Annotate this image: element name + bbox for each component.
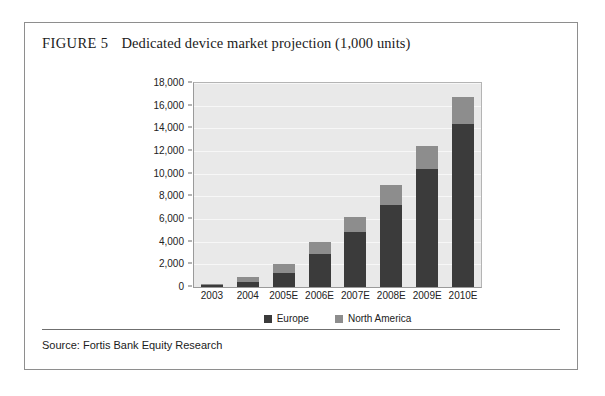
- bar-segment-europe[interactable]: [201, 285, 223, 287]
- y-tick-label: 18,000: [153, 77, 184, 88]
- bar-group[interactable]: [380, 83, 402, 287]
- chart: 02,0004,0006,0008,00010,00012,00014,0001…: [143, 75, 488, 330]
- y-axis: 02,0004,0006,0008,00010,00012,00014,0001…: [143, 75, 193, 293]
- bar-segment-north-america[interactable]: [452, 97, 474, 124]
- y-tick-label: 8,000: [159, 190, 184, 201]
- bar-segment-europe[interactable]: [309, 254, 331, 287]
- figure-title-text: Dedicated device market projection (1,00…: [121, 35, 410, 51]
- bar-segment-north-america[interactable]: [380, 185, 402, 205]
- bar-group[interactable]: [237, 83, 259, 287]
- y-tick-mark: [188, 82, 192, 83]
- x-tick-label: 2005E: [266, 290, 302, 301]
- y-tick-mark: [188, 263, 192, 264]
- y-tick-mark: [188, 127, 192, 128]
- y-tick-mark: [188, 195, 192, 196]
- legend-entry[interactable]: Europe: [264, 313, 309, 324]
- figure-title: FIGURE 5Dedicated device market projecti…: [42, 35, 411, 52]
- x-tick-label: 2010E: [445, 290, 481, 301]
- bar-series-container: [194, 83, 481, 287]
- y-tick-mark: [188, 240, 192, 241]
- bar-segment-north-america[interactable]: [344, 217, 366, 232]
- y-tick-mark: [188, 172, 192, 173]
- bar-segment-europe[interactable]: [344, 232, 366, 287]
- source-note: Source: Fortis Bank Equity Research: [42, 339, 222, 351]
- x-tick-label: 2007E: [338, 290, 374, 301]
- legend-swatch-icon: [335, 315, 343, 323]
- bar-segment-europe[interactable]: [273, 273, 295, 287]
- y-tick-mark: [188, 286, 192, 287]
- y-tick-label: 6,000: [159, 213, 184, 224]
- x-tick-label: 2004: [230, 290, 266, 301]
- x-axis: 200320042005E2006E2007E2008E2009E2010E: [194, 290, 481, 301]
- footer-divider: [42, 329, 560, 330]
- bar-segment-north-america[interactable]: [273, 264, 295, 273]
- y-tick-label: 16,000: [153, 99, 184, 110]
- y-tick-label: 4,000: [159, 235, 184, 246]
- bar-segment-europe[interactable]: [416, 169, 438, 287]
- figure-card: FIGURE 5Dedicated device market projecti…: [24, 22, 578, 370]
- y-tick-label: 0: [178, 281, 184, 292]
- bar-group[interactable]: [273, 83, 295, 287]
- y-tick-mark: [188, 150, 192, 151]
- plot-area: [193, 82, 482, 288]
- legend-label: Europe: [277, 313, 309, 324]
- bar-segment-europe[interactable]: [452, 124, 474, 287]
- x-tick-label: 2006E: [302, 290, 338, 301]
- legend-label: North America: [348, 313, 411, 324]
- bar-segment-north-america[interactable]: [309, 242, 331, 254]
- bar-segment-europe[interactable]: [237, 282, 259, 287]
- x-tick-label: 2009E: [409, 290, 445, 301]
- bar-group[interactable]: [416, 83, 438, 287]
- y-tick-label: 10,000: [153, 167, 184, 178]
- legend-entry[interactable]: North America: [335, 313, 411, 324]
- y-tick-label: 2,000: [159, 258, 184, 269]
- x-tick-label: 2008E: [373, 290, 409, 301]
- legend-swatch-icon: [264, 315, 272, 323]
- x-tick-label: 2003: [194, 290, 230, 301]
- y-tick-label: 14,000: [153, 122, 184, 133]
- y-tick-mark: [188, 104, 192, 105]
- y-tick-label: 12,000: [153, 145, 184, 156]
- legend: EuropeNorth America: [194, 313, 481, 324]
- bar-group[interactable]: [452, 83, 474, 287]
- bar-group[interactable]: [201, 83, 223, 287]
- bar-segment-north-america[interactable]: [416, 146, 438, 169]
- figure-label: FIGURE 5: [42, 35, 108, 51]
- bar-group[interactable]: [344, 83, 366, 287]
- bar-segment-europe[interactable]: [380, 205, 402, 287]
- y-tick-mark: [188, 218, 192, 219]
- bar-group[interactable]: [309, 83, 331, 287]
